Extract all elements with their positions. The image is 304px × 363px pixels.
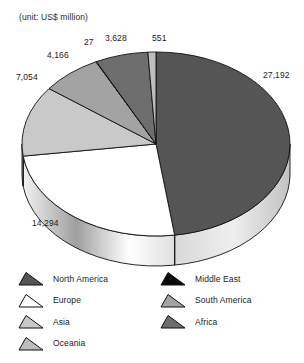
legend-column-right: Middle EastSouth AmericaAfrica bbox=[160, 268, 252, 333]
legend-item-south-america[interactable]: South America bbox=[160, 290, 252, 312]
legend-swatch-icon bbox=[160, 293, 186, 308]
legend-item-oceania[interactable]: Oceania bbox=[18, 333, 108, 355]
legend-swatch-icon bbox=[18, 293, 44, 308]
pie-value-label: 551 bbox=[152, 33, 166, 43]
chart-legend: North AmericaEuropeAsiaOceania Middle Ea… bbox=[0, 268, 304, 363]
legend-swatch-icon bbox=[160, 271, 186, 286]
pie-chart-figure: (unit: US$ million) 27,19214,2947,0544,1… bbox=[0, 0, 304, 363]
legend-label: Asia bbox=[53, 317, 70, 327]
pie-value-label: 3,628 bbox=[105, 33, 127, 43]
legend-label: Africa bbox=[195, 317, 217, 327]
legend-label: North America bbox=[53, 274, 108, 284]
legend-swatch-icon bbox=[18, 336, 44, 351]
legend-label: Middle East bbox=[195, 274, 241, 284]
legend-label: South America bbox=[195, 295, 252, 305]
legend-item-africa[interactable]: Africa bbox=[160, 311, 252, 333]
legend-swatch-icon bbox=[18, 271, 44, 286]
legend-item-europe[interactable]: Europe bbox=[18, 290, 108, 312]
pie-value-label: 4,166 bbox=[47, 50, 69, 60]
legend-column-left: North AmericaEuropeAsiaOceania bbox=[18, 268, 108, 354]
pie-value-label: 7,054 bbox=[16, 72, 38, 82]
pie-value-label: 27 bbox=[84, 37, 94, 47]
legend-item-asia[interactable]: Asia bbox=[18, 311, 108, 333]
legend-label: Europe bbox=[53, 295, 81, 305]
pie-top-face bbox=[22, 52, 290, 236]
legend-swatch-icon bbox=[160, 314, 186, 329]
legend-item-north-america[interactable]: North America bbox=[18, 268, 108, 290]
pie-value-label: 27,192 bbox=[263, 70, 290, 80]
pie-value-label: 14,294 bbox=[32, 218, 59, 228]
legend-swatch-icon bbox=[18, 314, 44, 329]
legend-label: Oceania bbox=[53, 338, 85, 348]
legend-item-middle-east[interactable]: Middle East bbox=[160, 268, 252, 290]
